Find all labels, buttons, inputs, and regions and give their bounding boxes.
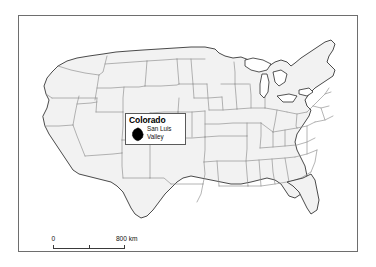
locator-map-figure: Colorado San Luis Valley 0 800 km [0, 0, 376, 267]
colorado-label: Colorado [129, 115, 166, 125]
scale-bar: 0 800 km [53, 235, 133, 252]
colorado-callout-box: Colorado San Luis Valley [125, 113, 186, 145]
scale-tick-start [53, 245, 54, 249]
usa-map-graphic [19, 16, 357, 251]
san-luis-valley-line1: San Luis [147, 125, 172, 133]
scale-tick-end [124, 245, 125, 249]
san-luis-valley-marker [131, 127, 145, 142]
san-luis-valley-label: San Luis Valley [147, 125, 172, 140]
scale-max-label: 800 km [116, 235, 138, 242]
san-luis-valley-line2: Valley [147, 133, 172, 141]
map-frame: Colorado San Luis Valley 0 800 km [18, 15, 358, 252]
scale-min-label: 0 [51, 235, 55, 242]
texas-oklahoma-borders [171, 184, 203, 202]
scale-tick-mid [89, 245, 90, 249]
